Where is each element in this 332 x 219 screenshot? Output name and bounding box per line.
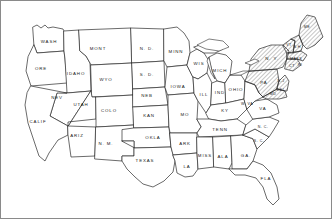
- state-label-nh: N.H: [293, 45, 301, 49]
- state-shape-maine[interactable]: [299, 15, 323, 49]
- state-label-ri: RI: [298, 63, 303, 67]
- state-label-wyo: WYO: [99, 77, 112, 82]
- state-label-nm: N. M.: [99, 141, 114, 146]
- state-label-idaho: IDAHO: [67, 71, 85, 76]
- state-label-wis: WIS: [194, 61, 205, 66]
- state-label-del: DEL: [277, 88, 286, 92]
- state-label-wash: WASH: [41, 39, 58, 44]
- state-label-wva: W. VA: [241, 102, 253, 106]
- state-label-mont: MONT: [90, 46, 107, 51]
- lake-erie: [230, 71, 249, 75]
- state-outlines: [25, 15, 323, 205]
- state-shape-minn[interactable]: [164, 27, 190, 67]
- state-label-vt: VT: [286, 43, 292, 47]
- state-label-md: MD: [270, 92, 277, 96]
- state-label-ind: IND: [215, 90, 225, 95]
- state-label-ky: KY: [221, 108, 229, 113]
- state-label-pa: PA: [260, 80, 267, 85]
- state-label-fla: FLA: [261, 176, 272, 181]
- state-label-maine: ME: [304, 25, 310, 29]
- state-label-ill: ILL: [200, 92, 209, 97]
- state-label-nev: NEV: [51, 95, 63, 100]
- state-label-okla: OKLA: [145, 135, 160, 140]
- state-label-nc: N. C.: [258, 125, 269, 129]
- state-label-ohio: OHIO: [229, 87, 244, 92]
- state-label-sd: S. D.: [140, 72, 154, 77]
- state-label-utah: UTAH: [73, 102, 88, 107]
- state-shape-ariz[interactable]: [68, 126, 96, 157]
- state-label-ala: ALA: [218, 154, 229, 159]
- state-label-colo: COLO: [101, 108, 117, 113]
- state-label-minn: MINN: [169, 49, 184, 54]
- state-label-nj: N.J: [278, 79, 285, 83]
- state-label-conn: CT: [289, 64, 295, 68]
- state-label-iowa: IOWA: [170, 84, 185, 89]
- us-states-map: WASHOREIDAHOMONTWYONEVUTAHCOLOCALIFARIZN…: [1, 1, 332, 219]
- state-label-neb: NEB: [141, 93, 153, 98]
- state-label-ga: GA.: [241, 153, 251, 158]
- state-label-mass: MASS: [290, 57, 302, 61]
- state-label-ny: N. Y.: [265, 56, 279, 61]
- map-frame: WASHOREIDAHOMONTWYONEVUTAHCOLOCALIFARIZN…: [0, 0, 332, 219]
- state-label-sc: S. C.: [254, 139, 265, 143]
- state-label-nd: N. D.: [140, 46, 155, 51]
- state-label-ark: ARK: [179, 141, 191, 146]
- state-label-miss: MISS: [198, 153, 212, 158]
- state-label-calif: CALIF: [30, 119, 47, 124]
- state-label-la: LA: [183, 164, 190, 169]
- state-shape-ala[interactable]: [213, 136, 232, 169]
- state-label-va: VA: [259, 106, 266, 111]
- state-label-texas: TEXAS: [136, 158, 155, 163]
- state-label-ariz: ARIZ: [70, 133, 84, 138]
- state-label-kan: KAN: [143, 113, 155, 118]
- state-label-tenn: TENN: [212, 127, 228, 132]
- state-label-mich: MICH: [213, 68, 228, 73]
- state-label-ore: ORE: [35, 66, 47, 71]
- state-label-mo: MO: [181, 112, 190, 117]
